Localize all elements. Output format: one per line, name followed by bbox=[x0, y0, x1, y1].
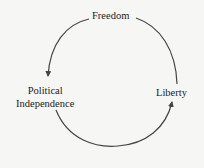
node-freedom: Freedom bbox=[92, 9, 129, 22]
node-freedom-label: Freedom bbox=[92, 10, 129, 21]
node-political-label-line2: Independence bbox=[16, 97, 74, 110]
cycle-diagram: Freedom Liberty Political Independence bbox=[0, 0, 204, 168]
arc-freedom-to-liberty bbox=[136, 18, 177, 84]
node-liberty: Liberty bbox=[156, 86, 187, 99]
node-political-label-line1: Political bbox=[16, 84, 74, 97]
node-political-independence: Political Independence bbox=[16, 84, 74, 110]
node-liberty-label: Liberty bbox=[156, 87, 187, 98]
arrow-freedom-to-political bbox=[48, 19, 89, 76]
